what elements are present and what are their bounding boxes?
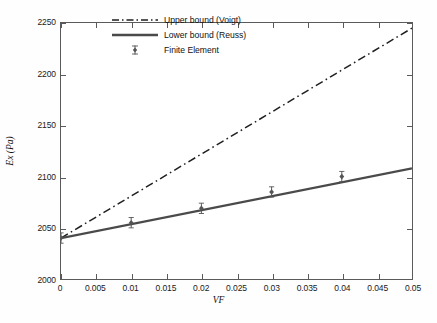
series-line-upper-bound-voigt: [61, 28, 412, 238]
y-tick: [61, 178, 66, 179]
x-tick-label: 0.05: [405, 283, 421, 293]
x-tick: [167, 274, 168, 279]
legend-item-voigt: Upper bound (Voigt): [110, 12, 300, 27]
x-tick-label: 0.02: [193, 283, 209, 293]
x-tick-top: [308, 23, 309, 28]
x-tick: [379, 274, 380, 279]
x-tick-label: 0.045: [367, 283, 388, 293]
data-point-marker: [61, 233, 64, 243]
legend-label-voigt: Upper bound (Voigt): [160, 15, 241, 25]
x-tick: [61, 274, 62, 279]
solid-line-key: [110, 28, 160, 42]
y-tick: [61, 75, 66, 76]
x-tick-top: [343, 23, 344, 28]
x-tick-label: 0.005: [85, 283, 106, 293]
x-tick-label: 0.035: [297, 283, 318, 293]
x-tick: [308, 274, 309, 279]
x-tick-label: 0.04: [334, 283, 350, 293]
plot-area: [60, 22, 413, 280]
x-tick-top: [96, 23, 97, 28]
y-tick-right: [407, 75, 412, 76]
legend-label-finite-element: Finite Element: [160, 45, 219, 55]
data-layer: [61, 23, 412, 279]
y-tick-label: 2150: [37, 120, 56, 130]
series-line-lower-bound-reuss: [61, 168, 412, 238]
y-tick-label: 2000: [37, 275, 56, 285]
y-tick: [61, 23, 66, 24]
x-tick: [202, 274, 203, 279]
dashdot-line-key: [110, 13, 160, 27]
x-tick-label: 0.015: [156, 283, 177, 293]
data-point-marker: [199, 203, 204, 213]
chart-legend: Upper bound (Voigt) Lower bound (Reuss) …: [110, 10, 300, 59]
legend-item-reuss: Lower bound (Reuss): [110, 27, 300, 42]
x-tick: [343, 274, 344, 279]
x-tick: [238, 274, 239, 279]
x-tick-top: [379, 23, 380, 28]
x-tick: [273, 274, 274, 279]
data-point-marker: [129, 218, 134, 228]
y-tick-right: [407, 23, 412, 24]
y-tick-label: 2250: [37, 17, 56, 27]
x-tick-label: 0.025: [226, 283, 247, 293]
x-axis-title: VF: [0, 295, 437, 305]
x-tick-label: 0: [58, 283, 63, 293]
y-tick-label: 2050: [37, 223, 56, 233]
diamond-marker-key: [110, 43, 160, 57]
y-tick-label: 2200: [37, 69, 56, 79]
x-tick-label: 0.01: [123, 283, 139, 293]
figure-canvas: 00.0050.010.0150.020.0250.030.0350.040.0…: [0, 0, 437, 323]
y-tick: [61, 229, 66, 230]
y-tick-right: [407, 126, 412, 127]
legend-item-finite-element: Finite Element: [110, 42, 300, 57]
y-tick-label: 2100: [37, 172, 56, 182]
y-tick-right: [407, 229, 412, 230]
y-tick-right: [407, 178, 412, 179]
legend-label-reuss: Lower bound (Reuss): [160, 30, 246, 40]
y-axis-title: Ex (Pa): [5, 136, 15, 165]
x-tick: [96, 274, 97, 279]
data-point-marker: [339, 171, 344, 181]
x-tick-label: 0.03: [264, 283, 280, 293]
y-tick: [61, 126, 66, 127]
x-tick: [132, 274, 133, 279]
